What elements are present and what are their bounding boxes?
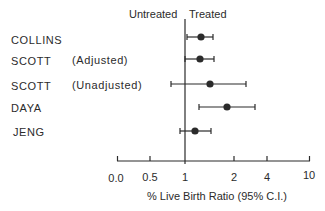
x-tick-label: 4 <box>264 171 270 183</box>
forest-plot <box>0 0 325 211</box>
x-tick-label: 1 <box>182 171 188 183</box>
point-daya <box>223 103 230 110</box>
x-tick-label: 0.0 <box>108 172 123 184</box>
x-tick-label: 2 <box>231 171 237 183</box>
point-scott-unadjusted <box>206 80 213 87</box>
x-tick-label: 0.5 <box>142 171 157 183</box>
x-axis-label: % Live Birth Ratio (95% C.I.) <box>147 190 287 202</box>
point-scott-adjusted <box>196 55 203 62</box>
point-jeng <box>191 127 198 134</box>
x-tick-label: 10 <box>303 169 315 181</box>
point-collins <box>197 33 204 40</box>
